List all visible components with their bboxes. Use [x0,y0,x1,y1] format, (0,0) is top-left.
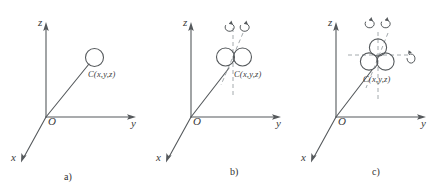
x-axis-label: x [156,152,161,163]
figure-3d-coordinate-rotations: z y x O C(x,y,z) a) [0,0,435,191]
panel-a: z y x O C(x,y,z) a) [0,0,145,191]
rotation-arrow-1-arc [365,20,374,28]
rotation-arrow-2-head [385,17,389,21]
z-axis-label: z [38,17,42,28]
point-label-c: C(x,y,z) [234,70,262,79]
orbital-circle-1 [217,48,235,66]
panel-c-drawing [290,0,435,191]
origin-label: O [338,116,346,127]
origin-label: O [193,116,201,127]
panel-caption-b: b) [230,167,238,177]
orbital-circle-left [360,53,377,70]
rotation-arrow-3-arc [407,54,415,63]
z-axis-label: z [183,17,187,28]
panel-caption-a: a) [64,172,72,182]
x-axis-line [24,117,46,157]
rotation-arrow-2-arc [381,20,390,28]
orbital-circle-2 [234,48,252,66]
position-vector-line [46,64,89,117]
origin-label: O [48,116,56,127]
rotation-arrow-2-head [244,21,248,25]
x-axis-line [314,117,336,157]
panel-b-drawing [145,0,290,191]
y-axis-label: y [276,118,281,129]
x-axis-label: x [11,152,16,163]
point-label-c: C(x,y,z) [363,75,391,84]
rotation-arrow-1-head [369,17,373,21]
rotation-arrow-1-arc [225,23,234,31]
y-axis-label: y [421,118,426,129]
position-vector-line [191,68,229,117]
z-axis-label: z [328,17,332,28]
panel-b: z y x O C(x,y,z) b) [145,0,290,191]
rotation-arrow-1-head [229,21,233,25]
panel-c: z y x O C(x,y,z) c) [290,0,435,191]
panel-a-drawing [0,0,145,191]
y-axis-label: y [131,118,136,129]
x-axis-label: x [301,152,306,163]
x-axis-line [169,117,191,157]
orbital-circle-1 [86,49,104,67]
panel-caption-c: c) [372,167,380,177]
orbital-circle-right [377,53,394,70]
rotation-arrow-2-arc [240,23,249,31]
point-label-c: C(x,y,z) [88,70,116,79]
